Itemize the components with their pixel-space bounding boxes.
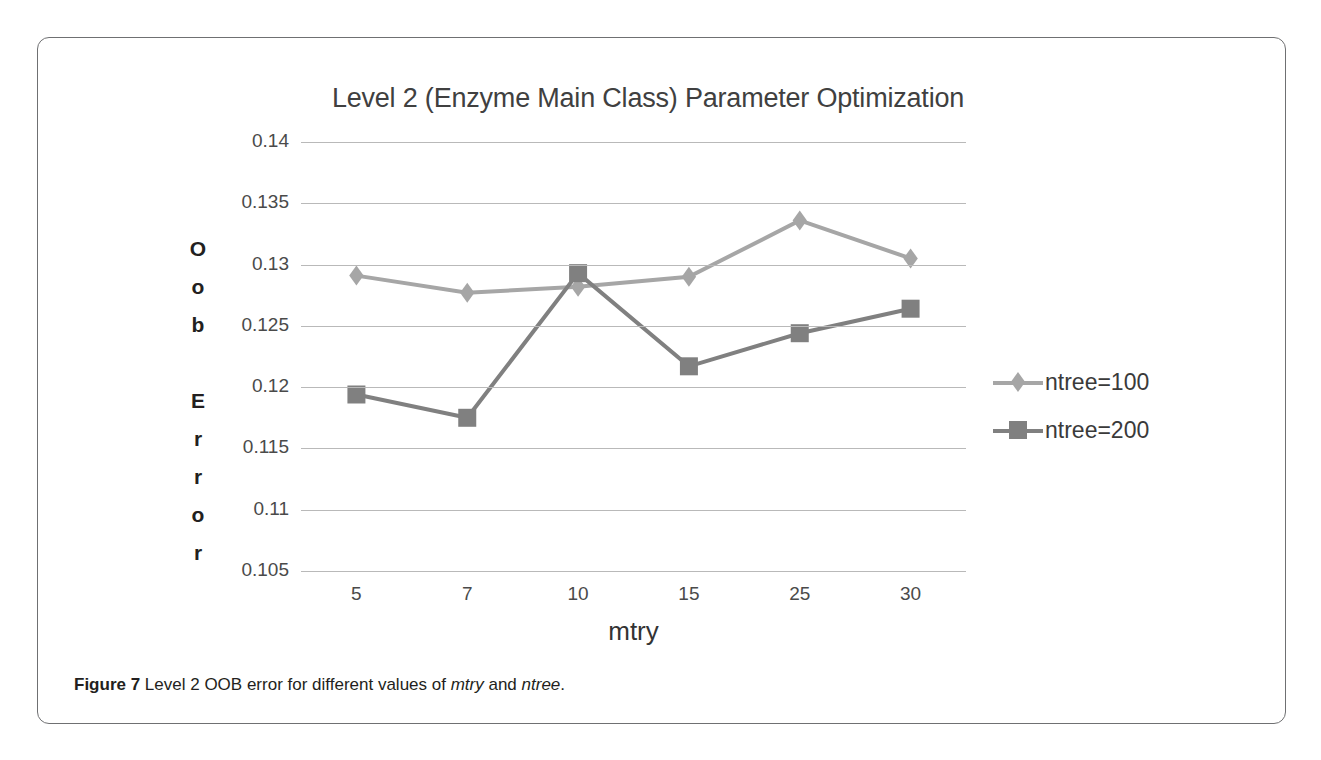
gridline bbox=[301, 142, 966, 143]
plot-area bbox=[301, 142, 966, 571]
chart-plot: Level 2 (Enzyme Main Class) Parameter Op… bbox=[38, 38, 1287, 658]
caption-text-1: Level 2 OOB error for different values o… bbox=[140, 675, 451, 694]
caption-text-2: and bbox=[484, 675, 522, 694]
data-point-marker bbox=[458, 409, 476, 427]
y-axis-title-char: r bbox=[181, 420, 215, 458]
y-axis-title-char bbox=[181, 344, 215, 382]
series-line bbox=[356, 273, 910, 418]
y-tick-label: 0.135 bbox=[241, 191, 289, 213]
chart-title: Level 2 (Enzyme Main Class) Parameter Op… bbox=[198, 83, 1098, 114]
series-line bbox=[356, 220, 910, 292]
legend-label: ntree=200 bbox=[1045, 417, 1149, 444]
x-tick-label: 7 bbox=[462, 583, 473, 605]
y-axis-title-char: E bbox=[181, 382, 215, 420]
gridline bbox=[301, 571, 966, 572]
gridline bbox=[301, 265, 966, 266]
y-tick-label: 0.11 bbox=[253, 498, 289, 520]
y-axis-title-char: r bbox=[181, 534, 215, 572]
gridline bbox=[301, 387, 966, 388]
data-point-marker bbox=[680, 357, 698, 375]
x-tick-label: 5 bbox=[351, 583, 362, 605]
y-tick-label: 0.14 bbox=[252, 130, 289, 152]
figure-container: Level 2 (Enzyme Main Class) Parameter Op… bbox=[37, 37, 1286, 724]
x-axis-title: mtry bbox=[301, 616, 966, 647]
x-tick-label: 25 bbox=[789, 583, 810, 605]
data-point-marker bbox=[460, 283, 474, 303]
legend-label: ntree=100 bbox=[1045, 369, 1149, 396]
y-tick-label: 0.12 bbox=[252, 375, 289, 397]
caption-italic-mtry: mtry bbox=[451, 675, 484, 694]
y-tick-label: 0.105 bbox=[241, 559, 289, 581]
y-axis-title-char: b bbox=[181, 306, 215, 344]
data-point-marker bbox=[791, 324, 809, 342]
x-tick-label: 15 bbox=[678, 583, 699, 605]
y-axis-tick-labels: 0.1050.110.1150.120.1250.130.1350.14 bbox=[221, 142, 289, 571]
legend-item[interactable]: ntree=100 bbox=[993, 358, 1273, 406]
x-axis-tick-labels: 5710152530 bbox=[301, 583, 966, 613]
gridline bbox=[301, 448, 966, 449]
y-axis-title: Oob Error bbox=[181, 230, 215, 572]
y-axis-title-char: o bbox=[181, 496, 215, 534]
legend-marker bbox=[993, 372, 1043, 392]
data-point-marker bbox=[347, 385, 365, 403]
y-axis-title-char: o bbox=[181, 268, 215, 306]
y-tick-label: 0.13 bbox=[252, 253, 289, 275]
caption-text-3: . bbox=[560, 675, 565, 694]
data-point-marker bbox=[902, 300, 920, 318]
series-lines bbox=[301, 142, 966, 571]
caption-italic-ntree: ntree bbox=[522, 675, 561, 694]
caption-figure-number: Figure 7 bbox=[74, 675, 140, 694]
x-tick-label: 30 bbox=[900, 583, 921, 605]
y-tick-label: 0.115 bbox=[243, 436, 289, 458]
y-tick-label: 0.125 bbox=[241, 314, 289, 336]
data-point-marker bbox=[349, 266, 363, 286]
data-point-marker bbox=[793, 210, 807, 230]
gridline bbox=[301, 203, 966, 204]
data-point-marker bbox=[569, 264, 587, 282]
y-axis-title-char: O bbox=[181, 230, 215, 268]
legend-marker bbox=[993, 420, 1043, 440]
gridline bbox=[301, 510, 966, 511]
chart-legend: ntree=100ntree=200 bbox=[993, 358, 1273, 454]
y-axis-title-char: r bbox=[181, 458, 215, 496]
figure-caption: Figure 7 Level 2 OOB error for different… bbox=[74, 675, 565, 695]
legend-item[interactable]: ntree=200 bbox=[993, 406, 1273, 454]
gridline bbox=[301, 326, 966, 327]
data-point-marker bbox=[682, 267, 696, 287]
x-tick-label: 10 bbox=[568, 583, 589, 605]
